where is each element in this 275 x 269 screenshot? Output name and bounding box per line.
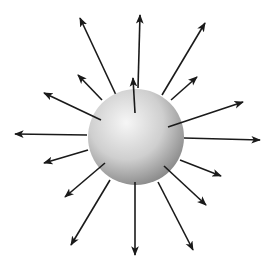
- field-arrow: [171, 77, 197, 100]
- field-arrow: [180, 160, 221, 176]
- field-arrow: [164, 166, 206, 205]
- field-arrow: [65, 163, 105, 197]
- field-arrow: [158, 182, 193, 250]
- field-arrow: [44, 150, 88, 163]
- field-arrow: [78, 75, 102, 100]
- field-arrow: [184, 138, 260, 140]
- field-arrow: [162, 23, 205, 95]
- field-arrow: [168, 102, 243, 127]
- field-arrow: [44, 93, 101, 120]
- field-arrow: [15, 134, 87, 135]
- field-diagram: [0, 0, 275, 269]
- field-arrow: [71, 180, 110, 245]
- field-arrow: [138, 15, 140, 88]
